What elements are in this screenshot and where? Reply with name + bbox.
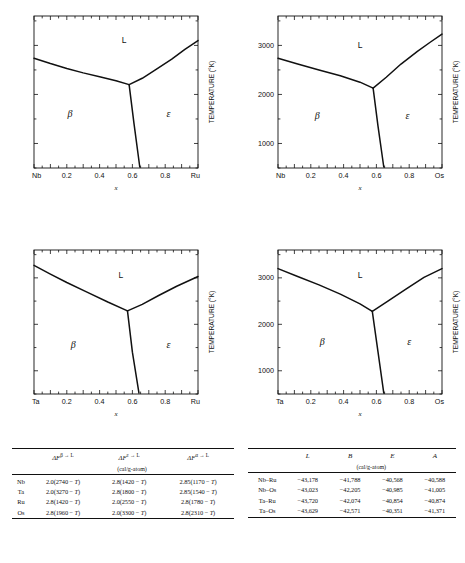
svg-text:0.2: 0.2 [62,171,72,180]
svg-text:0.6: 0.6 [127,397,137,406]
svg-text:0.4: 0.4 [95,397,105,406]
phase-diagram-figure-grid: Nb0.20.40.60.8RuxTEMPERATURE (°K)Lβε 100… [0,0,465,440]
svg-text:TEMPERATURE (°K): TEMPERATURE (°K) [208,291,216,354]
panel-svg-ta-os: 100020003000Ta0.20.40.60.8OsxTEMPERATURE… [232,228,465,440]
table-cell: −42,205 [329,486,371,496]
svg-text:L: L [358,40,363,50]
table-cell: −40,874 [414,496,456,506]
svg-text:0.8: 0.8 [404,171,414,180]
svg-text:3000: 3000 [258,41,274,50]
svg-text:TEMPERATURE (°K): TEMPERATURE (°K) [452,291,460,354]
table-cell: −40,568 [371,475,413,485]
svg-text:0.2: 0.2 [306,171,316,180]
table-cell: −41,371 [414,506,456,517]
table-row-label: Nb [12,477,30,487]
svg-text:Ta: Ta [32,397,40,406]
svg-text:L: L [122,35,127,45]
table-cell: −41,788 [329,475,371,485]
interaction-parameter-table-body: LBEA(cal/g-atom)Nb–Ru−43,178−41,788−40,5… [248,449,456,520]
table-column-header: L [287,451,329,462]
table-cell: 2.85(1170 − T) [162,477,234,487]
svg-text:0.6: 0.6 [127,171,137,180]
table-row-label: Ta [12,487,30,497]
table-units-row: (cal/g-atom) [12,464,234,474]
phase-diagram-panel-nb-os: 100020003000Nb0.20.40.60.8OsxTEMPERATURE… [232,0,464,220]
svg-text:β: β [67,108,73,119]
svg-text:TEMPERATURE (°K): TEMPERATURE (°K) [452,61,460,124]
table-cell: 2.8(1780 − T) [162,498,234,508]
table-cell: −43,023 [287,486,329,496]
svg-text:0.8: 0.8 [160,397,170,406]
svg-text:0.2: 0.2 [62,397,72,406]
table-cell: −40,588 [414,475,456,485]
table-row: Ru2.8(1420 − T)2.0(2550 − T)2.8(1780 − T… [12,498,234,508]
table-cell: 2.0(2740 − T) [30,477,96,487]
table-row: Nb–Ru−43,178−41,788−40,568−40,588 [248,475,456,485]
table-cell: 2.8(1420 − T) [96,477,162,487]
panel-svg-nb-os: 100020003000Nb0.20.40.60.8OsxTEMPERATURE… [232,0,465,220]
svg-text:2000: 2000 [258,90,274,99]
table-column-header: ΔFα → L [162,451,234,464]
svg-text:0.4: 0.4 [339,397,349,406]
table-cell: −42,571 [329,506,371,517]
table-row-label: Nb–Ru [248,475,287,485]
svg-text:Nb: Nb [276,171,285,180]
table-row: Os2.8(1960 − T)2.0(3300 − T)2.8(2310 − T… [12,508,234,519]
phase-diagram-panel-nb-ru: Nb0.20.40.60.8RuxTEMPERATURE (°K)Lβε [0,0,232,220]
svg-text:0.4: 0.4 [95,171,105,180]
svg-text:Ta: Ta [276,397,284,406]
table-cell: −40,985 [371,486,413,496]
svg-text:3000: 3000 [258,273,274,282]
svg-text:β: β [314,110,320,121]
phase-diagram-panel-ta-os: 100020003000Ta0.20.40.60.8OsxTEMPERATURE… [232,228,464,448]
svg-text:Ru: Ru [191,171,200,180]
svg-text:0.8: 0.8 [404,397,414,406]
table-cell: 2.8(2310 − T) [162,508,234,519]
table-header-row: LBEA [248,451,456,462]
table-cell: −40,854 [371,496,413,506]
table-header-row: ΔFβ → LΔFε → LΔFα → L [12,451,234,464]
table-column-header: ΔFβ → L [30,451,96,464]
svg-text:Os: Os [435,171,445,180]
table-column-header: A [414,451,456,462]
table-row-label: Ta–Os [248,506,287,517]
table-units-label: (cal/g-atom) [287,462,456,472]
svg-text:L: L [358,270,363,280]
table-cell: 2.0(3300 − T) [96,508,162,519]
table-cell: 2.85(1540 − T) [162,487,234,497]
table-corner-cell [248,451,287,462]
svg-text:0.6: 0.6 [371,171,381,180]
interaction-parameter-table: LBEA(cal/g-atom)Nb–Ru−43,178−41,788−40,5… [248,448,456,520]
table-row-label: Ta–Ru [248,496,287,506]
table-cell: −43,178 [287,475,329,485]
table-units-row: (cal/g-atom) [248,462,456,472]
table-cell: 2.8(1420 − T) [30,498,96,508]
svg-text:1000: 1000 [258,139,274,148]
svg-text:Ru: Ru [191,397,200,406]
table-row-label: Ru [12,498,30,508]
svg-text:1000: 1000 [258,366,274,375]
table-cell: 2.0(3270 − T) [30,487,96,497]
svg-text:x: x [113,410,118,418]
svg-text:0.6: 0.6 [371,397,381,406]
table-units-label: (cal/g-atom) [30,464,234,474]
free-energy-table: ΔFβ → LΔFε → LΔFα → L(cal/g-atom)Nb2.0(2… [12,448,234,521]
table-row: Ta2.0(3270 − T)2.8(1800 − T)2.85(1540 − … [12,487,234,497]
svg-text:0.8: 0.8 [160,171,170,180]
table-row-label: Os [12,508,30,519]
table-cell: −42,074 [329,496,371,506]
svg-text:TEMPERATURE (°K): TEMPERATURE (°K) [208,61,216,124]
table-cell: −40,351 [371,506,413,517]
table-row: Nb2.0(2740 − T)2.8(1420 − T)2.85(1170 − … [12,477,234,487]
table-cell: 2.8(1800 − T) [96,487,162,497]
table-column-header: E [371,451,413,462]
svg-text:ε: ε [406,110,410,121]
svg-text:x: x [113,184,118,192]
panel-svg-ta-ru: Ta0.20.40.60.8RuxTEMPERATURE (°K)Lβε [0,228,232,440]
svg-text:x: x [357,184,362,192]
table-column-header: B [329,451,371,462]
svg-text:ε: ε [167,339,171,350]
table-corner-cell [12,451,30,464]
svg-text:Nb: Nb [32,171,41,180]
table-cell: 2.0(2550 − T) [96,498,162,508]
